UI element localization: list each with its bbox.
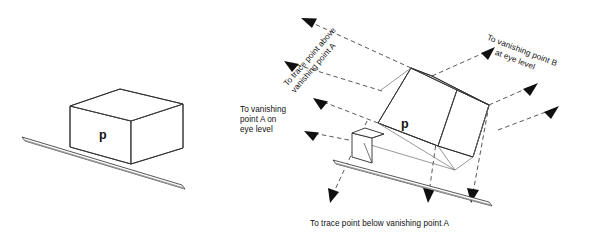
right-plane-letter: p bbox=[401, 118, 409, 131]
guide-ray-line bbox=[432, 51, 488, 76]
guide-ray-vanishing-b-upper bbox=[432, 47, 495, 76]
guide-ray-vanishing-b-lower bbox=[498, 106, 559, 130]
guide-ray-vanishing-a-upper bbox=[313, 98, 378, 123]
arrow-head-icon bbox=[301, 18, 317, 28]
arrow-head-icon bbox=[481, 47, 495, 60]
right-ruler-shadow bbox=[334, 162, 491, 206]
figure-svg bbox=[0, 0, 590, 237]
construction-line-base-right bbox=[455, 157, 473, 170]
right-straightedge bbox=[333, 160, 492, 206]
height-measure-block bbox=[352, 128, 384, 163]
guide-ray-line bbox=[321, 101, 378, 123]
arrow-head-icon bbox=[304, 131, 319, 141]
guide-ray-vanishing-b-middle bbox=[489, 83, 538, 105]
arrow-head-icon bbox=[313, 98, 328, 110]
label-trace-point-below: To trace point below vanishing point A bbox=[310, 219, 449, 229]
arrow-head-icon bbox=[328, 188, 339, 203]
guide-ray-line bbox=[498, 110, 551, 130]
left-plane-letter: p bbox=[99, 129, 107, 142]
arrow-head-icon bbox=[523, 83, 538, 96]
arrow-head-icon bbox=[544, 106, 559, 119]
label-vanishing-point-a: To vanishing point A on eye level bbox=[240, 105, 286, 136]
diagram-canvas: To trace point above vanishing point A T… bbox=[0, 0, 590, 237]
